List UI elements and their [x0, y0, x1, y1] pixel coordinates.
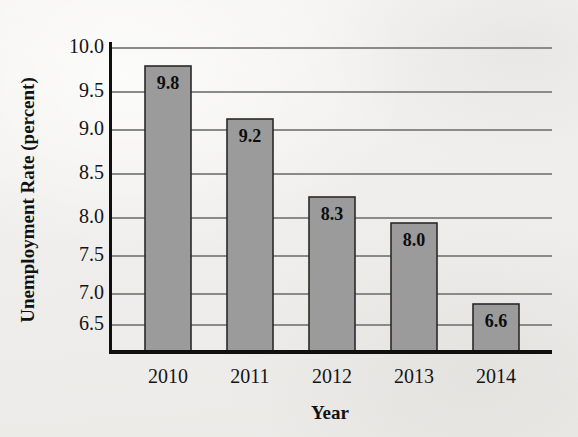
y-tick-label: 6.5: [79, 312, 104, 334]
bars-group: 9.8 9.2 8.3 8.0 6.6: [145, 66, 519, 352]
x-tick-label: 2013: [394, 365, 434, 387]
y-tick-label: 10.0: [69, 35, 104, 57]
x-tick-label: 2012: [312, 365, 352, 387]
x-axis-title: Year: [311, 402, 350, 423]
y-tick-label: 9.0: [79, 117, 104, 139]
bar-value-label: 9.8: [157, 73, 180, 93]
bar-2010[interactable]: 9.8: [145, 66, 191, 352]
x-tick-label: 2011: [230, 365, 269, 387]
bar-value-label: 8.3: [321, 204, 344, 224]
bar-value-label: 8.0: [403, 230, 426, 250]
unemployment-rate-bar-chart: Unemployment Rate (percent) 10.0 9.5 9.0…: [0, 0, 578, 437]
bar-2011[interactable]: 9.2: [227, 119, 273, 352]
bar-value-label: 6.6: [485, 311, 508, 331]
y-tick-label: 7.5: [79, 243, 104, 265]
bar-2013[interactable]: 8.0: [391, 223, 437, 352]
y-tick-label: 7.0: [79, 281, 104, 303]
y-tick-label: 8.5: [79, 161, 104, 183]
x-tick-label: 2014: [476, 365, 516, 387]
y-tick-label: 9.5: [79, 79, 104, 101]
x-tick-label: 2010: [148, 365, 188, 387]
y-axis-tick-labels: 10.0 9.5 9.0 8.5 8.0 7.5 7.0 6.5: [69, 35, 104, 334]
bar-rect[interactable]: [145, 66, 191, 352]
y-tick-label: 8.0: [79, 205, 104, 227]
x-axis-tick-labels: 2010 2011 2012 2013 2014: [148, 365, 516, 387]
bar-rect[interactable]: [227, 119, 273, 352]
y-axis-title: Unemployment Rate (percent): [17, 77, 39, 323]
chart-page: Unemployment Rate (percent) 10.0 9.5 9.0…: [0, 0, 578, 437]
bar-2014[interactable]: 6.6: [473, 304, 519, 352]
bar-value-label: 9.2: [239, 126, 262, 146]
bar-2012[interactable]: 8.3: [309, 197, 355, 352]
